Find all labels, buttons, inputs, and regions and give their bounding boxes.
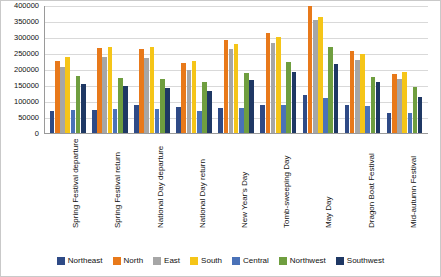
legend-item[interactable]: Southwest <box>336 256 384 265</box>
bar <box>102 57 107 133</box>
y-tick-label: 0 <box>35 130 39 138</box>
bar <box>97 48 102 133</box>
bar-group <box>384 6 426 133</box>
bar-groups <box>45 6 428 133</box>
bar <box>150 47 155 133</box>
bar <box>71 110 76 133</box>
bar <box>108 47 113 133</box>
bar <box>397 79 402 133</box>
bar <box>371 77 376 133</box>
bar-group <box>215 6 257 133</box>
bar <box>313 20 318 133</box>
bar <box>281 105 286 133</box>
bar <box>244 73 249 133</box>
legend-item[interactable]: North <box>113 256 144 265</box>
bar <box>318 17 323 133</box>
bar <box>55 61 60 133</box>
bar <box>408 113 413 133</box>
x-tick-label: Mid-autumn Festival <box>409 156 418 228</box>
bar-group <box>300 6 342 133</box>
bar <box>328 47 333 133</box>
bar <box>323 98 328 133</box>
bar <box>229 49 234 133</box>
x-tick-label: Dragon Boat Festival <box>367 153 376 228</box>
legend-item[interactable]: South <box>190 256 222 265</box>
bar <box>234 44 239 133</box>
bar <box>365 106 370 133</box>
y-tick-label: 200000 <box>14 66 39 74</box>
bar <box>123 86 128 133</box>
bar <box>286 62 291 133</box>
legend: NortheastNorthEastSouthCentralNorthwestS… <box>0 256 441 265</box>
bar <box>113 109 118 133</box>
bar <box>376 82 381 133</box>
x-tick-label: May Day <box>324 196 333 228</box>
y-tick-label: 300000 <box>14 34 39 42</box>
bar <box>266 33 271 133</box>
bar <box>192 61 197 133</box>
x-tick-label: National Day departure <box>156 146 165 228</box>
bar <box>160 79 165 133</box>
bar <box>92 110 97 133</box>
bar <box>224 40 229 133</box>
bar-chart: 0500001000001500002000002500003000003500… <box>0 0 441 277</box>
bar <box>81 84 86 133</box>
bar <box>165 88 170 133</box>
bar <box>387 113 392 133</box>
legend-swatch-icon <box>336 257 344 265</box>
bar <box>134 105 139 133</box>
bar <box>60 67 65 133</box>
legend-swatch-icon <box>279 257 287 265</box>
bar <box>292 72 297 133</box>
legend-swatch-icon <box>153 257 161 265</box>
bar <box>176 107 181 133</box>
bar-group <box>89 6 131 133</box>
x-tick-label: Spring Festival departure <box>71 139 80 228</box>
bar <box>139 49 144 133</box>
y-tick-label: 350000 <box>14 18 39 26</box>
bar <box>402 72 407 133</box>
bar <box>249 80 254 133</box>
legend-swatch-icon <box>232 257 240 265</box>
bar <box>187 70 192 133</box>
x-tick-label: Spring Festival return <box>113 152 122 228</box>
bar <box>197 111 202 133</box>
legend-label: North <box>124 256 144 265</box>
bar <box>218 108 223 133</box>
bar <box>345 105 350 133</box>
bar-group <box>131 6 173 133</box>
bar <box>50 111 55 133</box>
bar <box>207 91 212 133</box>
bar <box>276 37 281 133</box>
legend-label: South <box>201 256 222 265</box>
y-tick-label: 250000 <box>14 50 39 58</box>
bar <box>260 105 265 133</box>
legend-item[interactable]: Northeast <box>57 256 103 265</box>
bar <box>65 57 70 133</box>
y-axis-labels: 0500001000001500002000002500003000003500… <box>0 0 42 134</box>
legend-swatch-icon <box>57 257 65 265</box>
bar <box>202 82 207 133</box>
y-tick-label: 100000 <box>14 98 39 106</box>
bar <box>418 97 423 133</box>
x-tick-label: Tomb-sweeping Day <box>282 156 291 228</box>
legend-item[interactable]: Northwest <box>279 256 326 265</box>
plot-area <box>44 6 428 134</box>
legend-label: East <box>164 256 180 265</box>
bar <box>239 108 244 133</box>
bar <box>303 95 308 133</box>
y-tick-label: 400000 <box>14 2 39 10</box>
legend-label: Northwest <box>290 256 326 265</box>
legend-item[interactable]: Central <box>232 256 269 265</box>
bar <box>350 51 355 133</box>
bar <box>181 63 186 133</box>
bar <box>360 54 365 133</box>
legend-item[interactable]: East <box>153 256 180 265</box>
y-tick-label: 150000 <box>14 82 39 90</box>
x-tick-label: National Day return <box>198 159 207 228</box>
bar <box>144 58 149 133</box>
bar <box>392 74 397 133</box>
bar <box>355 60 360 133</box>
legend-label: Northeast <box>68 256 103 265</box>
bar-group <box>47 6 89 133</box>
